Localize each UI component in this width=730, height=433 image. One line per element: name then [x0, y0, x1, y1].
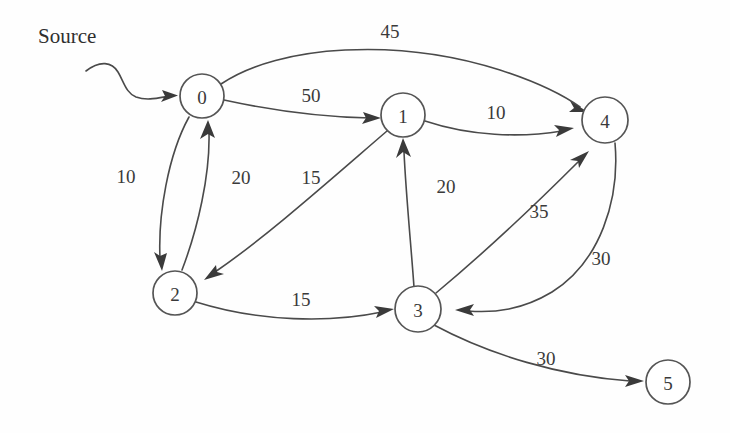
graph-svg: Source 45 50 10 10 20	[0, 0, 730, 433]
edge-2-0-arrow-head	[200, 120, 215, 139]
edge-1-2	[204, 131, 387, 280]
edge-label-4-3: 30	[592, 248, 611, 269]
graph-diagram-canvas: Source 45 50 10 10 20	[0, 0, 730, 433]
edge-1-4-path	[425, 121, 562, 135]
node-0[interactable]: 0	[180, 74, 224, 118]
node-4[interactable]: 4	[582, 97, 628, 143]
node-2-label: 2	[170, 284, 180, 305]
source-squiggle-path	[86, 64, 170, 99]
edge-1-4	[425, 121, 574, 137]
source-annotation	[86, 64, 178, 102]
edge-1-2-path	[215, 131, 387, 272]
node-0-label: 0	[197, 87, 207, 108]
edge-2-3-path	[196, 302, 382, 319]
edge-4-3-path	[468, 143, 616, 312]
edge-label-0-1: 50	[302, 85, 321, 106]
node-4-label: 4	[600, 111, 610, 132]
node-2[interactable]: 2	[153, 271, 197, 315]
source-arrow-head	[161, 90, 178, 102]
edge-3-1	[396, 138, 414, 287]
edge-label-0-2: 10	[117, 166, 136, 187]
edge-label-2-0: 20	[232, 167, 251, 188]
edge-2-0	[182, 120, 215, 270]
edge-3-5-path	[434, 325, 630, 381]
edge-label-2-3: 15	[292, 289, 311, 310]
node-1-label: 1	[398, 106, 408, 127]
edge-2-0-path	[182, 133, 209, 270]
edge-3-1-path	[404, 152, 414, 287]
node-3[interactable]: 3	[395, 286, 441, 332]
edge-0-1-path	[224, 100, 370, 118]
node-3-label: 3	[413, 300, 423, 321]
source-label: Source	[38, 24, 96, 48]
edge-label-0-4: 45	[381, 21, 400, 42]
node-5-label: 5	[663, 373, 673, 394]
edge-label-1-4: 10	[487, 102, 506, 123]
edge-3-4-path	[436, 161, 579, 293]
edge-3-4	[436, 151, 589, 293]
edge-0-2	[154, 117, 189, 271]
edge-label-3-5: 30	[537, 348, 556, 369]
edge-0-2-path	[160, 117, 189, 258]
edge-label-3-4: 35	[530, 201, 549, 222]
edge-3-4-arrow-head	[570, 151, 589, 168]
edge-4-3-arrow-head	[455, 304, 474, 316]
edge-4-3	[455, 143, 616, 316]
edge-label-3-1: 20	[437, 176, 456, 197]
node-5[interactable]: 5	[646, 360, 690, 404]
edge-label-1-2: 15	[302, 167, 321, 188]
node-1[interactable]: 1	[381, 93, 425, 137]
edge-2-3-arrow-head	[374, 306, 394, 318]
